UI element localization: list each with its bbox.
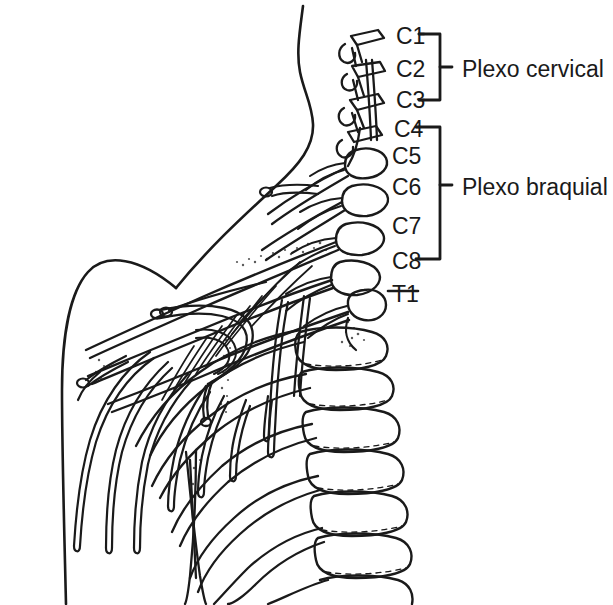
group-label-cervical: Plexo cervical <box>462 58 604 81</box>
root-label-c4: C4 <box>394 118 423 141</box>
root-label-c5: C5 <box>392 145 421 168</box>
root-label-c1: C1 <box>396 25 425 48</box>
root-label-c3: C3 <box>396 89 425 112</box>
ribs <box>136 330 328 604</box>
root-label-t1: T1 <box>392 283 419 306</box>
root-label-c7: C7 <box>392 215 421 238</box>
thoracic-vertebral-bodies <box>295 328 412 605</box>
anatomy-illustration <box>0 0 613 605</box>
lower-cervical-vertebrae <box>331 148 388 350</box>
neck-contour <box>176 6 313 288</box>
figure-canvas: C1C2C3C4C5C6C7C8T1 Plexo cervicalPlexo b… <box>0 0 613 605</box>
root-label-c6: C6 <box>392 176 421 199</box>
root-label-c2: C2 <box>396 58 425 81</box>
root-label-c8: C8 <box>392 250 421 273</box>
cervical-vertebrae <box>337 30 385 166</box>
group-label-brachial: Plexo braquial <box>462 176 608 199</box>
